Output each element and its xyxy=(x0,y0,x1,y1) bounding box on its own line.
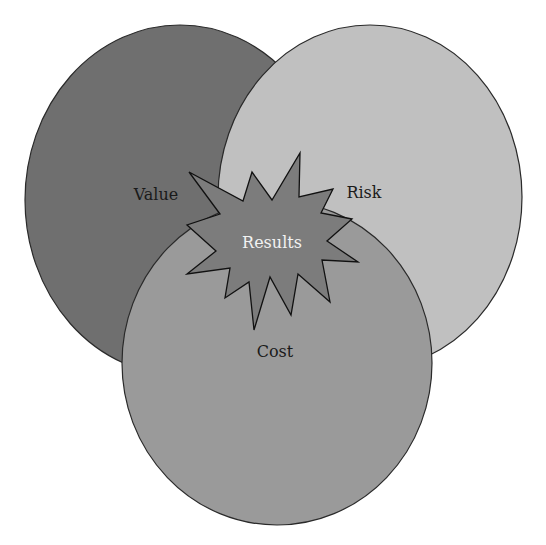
cost-label: Cost xyxy=(257,342,294,361)
results-label: Results xyxy=(242,233,302,252)
value-label: Value xyxy=(133,185,179,204)
risk-label: Risk xyxy=(346,183,381,202)
venn-diagram: Value Risk Cost Results xyxy=(0,0,546,545)
